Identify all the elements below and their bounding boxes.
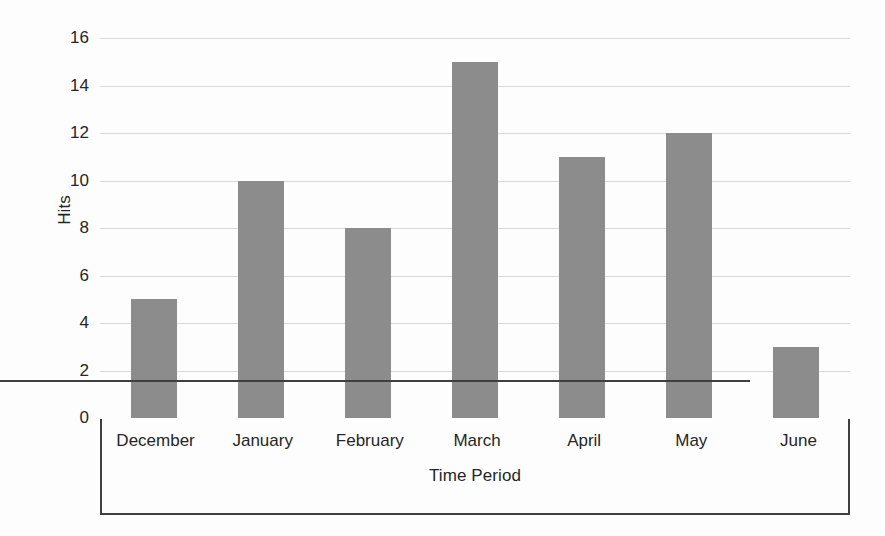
bar[interactable] bbox=[773, 347, 819, 418]
y-axis-tick-label: 2 bbox=[80, 361, 89, 381]
bar[interactable] bbox=[666, 133, 712, 418]
x-axis-tick-label: June bbox=[780, 431, 817, 451]
y-axis-tick-label: 14 bbox=[70, 76, 89, 96]
bar-slot bbox=[421, 38, 528, 418]
x-axis-tick-label: May bbox=[675, 431, 707, 451]
y-axis-tick-label: 6 bbox=[80, 266, 89, 286]
bar-slot bbox=[100, 38, 207, 418]
x-axis-tick-label: April bbox=[567, 431, 601, 451]
x-axis-title: Time Period bbox=[100, 466, 850, 486]
y-axis-tick-label: 12 bbox=[70, 123, 89, 143]
y-axis-tick-label: 0 bbox=[80, 408, 89, 428]
x-axis-tick-label: January bbox=[232, 431, 292, 451]
bar-slot bbox=[207, 38, 314, 418]
y-axis-tick-label: 4 bbox=[80, 313, 89, 333]
plot-area: 1614121086420 bbox=[100, 38, 850, 418]
x-axis-line bbox=[0, 380, 750, 382]
bar[interactable] bbox=[131, 299, 177, 418]
x-axis-tick-label: February bbox=[336, 431, 404, 451]
bar-slot bbox=[314, 38, 421, 418]
bar-slot bbox=[529, 38, 636, 418]
bar[interactable] bbox=[238, 181, 284, 419]
bar-slot bbox=[636, 38, 743, 418]
y-axis-tick-label: 8 bbox=[80, 218, 89, 238]
bar[interactable] bbox=[345, 228, 391, 418]
bars-group bbox=[100, 38, 850, 418]
bar-chart: Hits 1614121086420 DecemberJanuaryFebrua… bbox=[0, 0, 885, 536]
bar-slot bbox=[743, 38, 850, 418]
x-axis-tick-label: March bbox=[453, 431, 500, 451]
x-axis-tick-label: December bbox=[116, 431, 194, 451]
y-axis-tick-label: 16 bbox=[70, 28, 89, 48]
y-axis-tick-label: 10 bbox=[70, 171, 89, 191]
bar[interactable] bbox=[452, 62, 498, 418]
bar[interactable] bbox=[559, 157, 605, 418]
